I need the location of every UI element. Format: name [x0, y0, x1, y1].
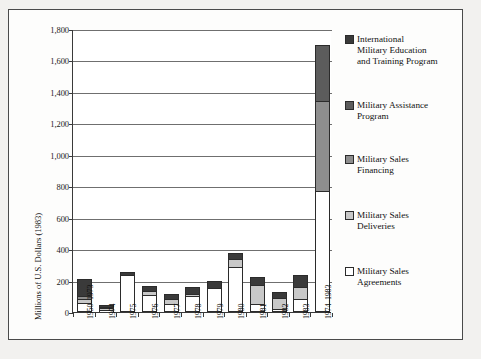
bar-segment[interactable] — [294, 276, 307, 287]
bar-segment[interactable] — [229, 260, 242, 267]
chart-frame: 02004006008001,0001,2001,4001,6001,800 M… — [8, 9, 463, 340]
bar-segment[interactable] — [208, 282, 221, 289]
legend-item[interactable]: Military SalesDeliveries — [345, 210, 409, 232]
bar[interactable] — [315, 45, 330, 312]
legend-item[interactable]: Military SalesFinancing — [345, 154, 409, 176]
y-axis-title-wrapper: Millions of U.S. Dollars (1983) — [41, 220, 55, 359]
y-axis-tick — [69, 124, 73, 125]
gridline — [73, 124, 332, 125]
y-axis-tick-label: 1,800 — [17, 25, 69, 35]
legend-swatch-icon — [345, 267, 354, 276]
x-axis-tick-label: 1950–1973 — [86, 285, 95, 319]
y-axis-tick — [69, 250, 73, 251]
gridline — [73, 30, 332, 31]
legend-swatch-icon — [345, 211, 354, 220]
x-axis-tick-label: 1980 — [237, 304, 246, 319]
y-axis-tick — [69, 219, 73, 220]
x-axis-tick-label: 1982 — [281, 304, 290, 319]
y-axis-tick-label: 1,000 — [17, 151, 69, 161]
gridline — [73, 219, 332, 220]
x-axis-tick-label: 1977 — [173, 304, 182, 319]
x-axis-tick-label: 1974 — [108, 304, 117, 319]
x-axis-tick-label: 1979 — [216, 304, 225, 319]
legend-swatch-icon — [345, 35, 354, 44]
y-axis-tick-label: 1,200 — [17, 119, 69, 129]
x-axis-tick-label: 1975 — [129, 304, 138, 319]
legend-item[interactable]: InternationalMilitary Educationand Train… — [345, 34, 438, 68]
gridline — [73, 250, 332, 251]
y-axis-tick — [69, 93, 73, 94]
plot-area — [72, 30, 331, 313]
y-axis-tick-label: 800 — [17, 182, 69, 192]
gridline — [73, 156, 332, 157]
legend-label: Military SalesAgreements — [357, 266, 409, 288]
gridline — [73, 93, 332, 94]
y-axis-tick — [69, 187, 73, 188]
bar-segment[interactable] — [186, 288, 199, 295]
bar-segment[interactable] — [294, 288, 307, 300]
x-axis-tick-label: 1983 — [302, 304, 311, 319]
y-axis-tick — [69, 30, 73, 31]
legend-swatch-icon — [345, 155, 354, 164]
bar-segment[interactable] — [316, 46, 329, 101]
y-axis-tick — [69, 156, 73, 157]
legend-label: Military AssistanceProgram — [357, 100, 428, 122]
y-axis-tick-label: 1,600 — [17, 56, 69, 66]
legend-label: Military SalesDeliveries — [357, 210, 409, 232]
x-axis-tick-label: 1976 — [151, 304, 160, 319]
bar-segment[interactable] — [251, 278, 264, 286]
legend-label: InternationalMilitary Educationand Train… — [357, 34, 438, 68]
y-axis-title: Millions of U.S. Dollars (1983) — [33, 170, 43, 320]
x-axis-tick-label: 1981 — [259, 304, 268, 319]
y-axis-tick-label: 1,400 — [17, 88, 69, 98]
legend-item[interactable]: Military AssistanceProgram — [345, 100, 428, 122]
legend-item[interactable]: Military SalesAgreements — [345, 266, 409, 288]
y-axis-tick — [69, 282, 73, 283]
bar-segment[interactable] — [316, 102, 329, 193]
gridline — [73, 187, 332, 188]
chart-legend: InternationalMilitary Educationand Train… — [345, 34, 465, 304]
legend-label: Military SalesFinancing — [357, 154, 409, 176]
y-axis-tick — [69, 61, 73, 62]
x-axis-tick-labels: 1950–19731974197519761977197819791980198… — [72, 317, 331, 359]
gridline — [73, 61, 332, 62]
x-axis-tick-label: 1978 — [194, 304, 203, 319]
x-axis-tick-label: 1974–1983 — [324, 285, 333, 319]
bar-segment[interactable] — [251, 286, 264, 305]
figure-canvas: 02004006008001,0001,2001,4001,6001,800 M… — [0, 0, 481, 359]
legend-swatch-icon — [345, 101, 354, 110]
